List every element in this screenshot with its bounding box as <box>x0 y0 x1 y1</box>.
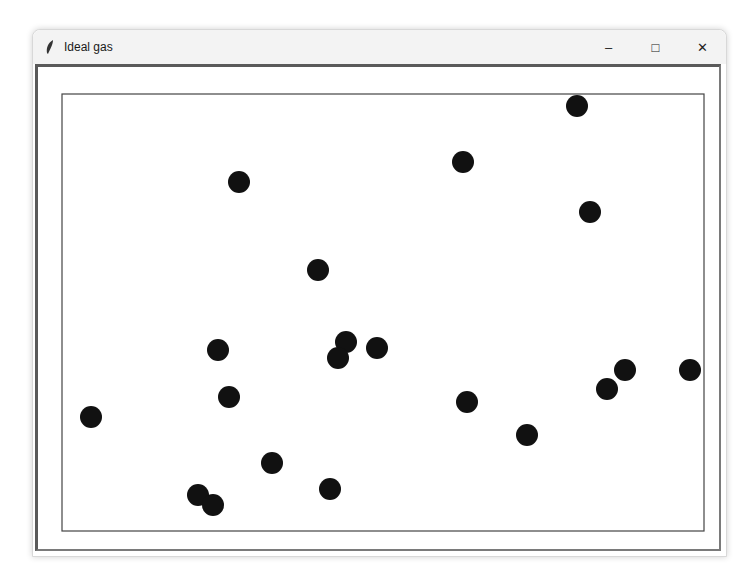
particle <box>366 337 388 359</box>
particle <box>679 359 701 381</box>
particle <box>327 347 349 369</box>
particle <box>80 406 102 428</box>
particle <box>614 359 636 381</box>
container-box <box>62 94 704 531</box>
simulation-canvas <box>0 0 756 581</box>
particle <box>456 391 478 413</box>
particle <box>307 259 329 281</box>
particle <box>516 424 538 446</box>
particle <box>596 378 618 400</box>
particles <box>80 95 701 516</box>
particle <box>452 151 474 173</box>
particle <box>218 386 240 408</box>
particle <box>319 478 341 500</box>
particle <box>202 494 224 516</box>
particle <box>579 201 601 223</box>
particle <box>261 452 283 474</box>
particle <box>228 171 250 193</box>
particle <box>566 95 588 117</box>
particle <box>207 339 229 361</box>
